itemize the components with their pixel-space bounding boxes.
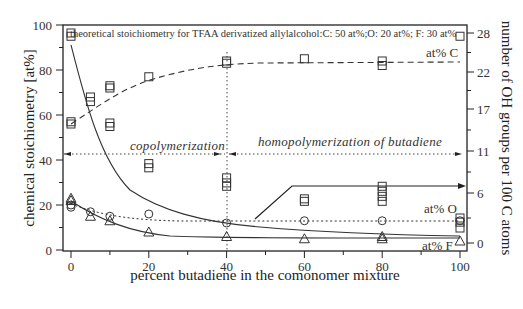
square-marker — [378, 187, 386, 195]
y-axis-label: chemical stoichiometry [at%] — [21, 49, 37, 226]
y2-tick-label: 11 — [477, 144, 490, 159]
left-y-axis: 020406080100 — [33, 18, 64, 258]
y2-axis-label: number of OH groups per 100 C atoms — [499, 21, 515, 256]
square-marker — [300, 55, 308, 63]
y2-tick-label: 22 — [477, 65, 490, 80]
y2-tick-label: 6 — [477, 186, 484, 201]
oh-axis-pointer-head — [458, 183, 466, 189]
x-axis-label: percent butadiene in the comonomer mixtu… — [130, 267, 400, 283]
y-tick-label: 80 — [39, 63, 52, 78]
at-o-fit-curve — [71, 204, 460, 221]
y2-tick-label: 0 — [477, 236, 484, 251]
square-marker — [86, 93, 94, 101]
y-tick-label: 60 — [39, 108, 52, 123]
series-label-c: at% C — [426, 45, 458, 60]
circle-marker — [145, 210, 153, 218]
square-marker — [106, 84, 114, 92]
arrowhead-mid-right — [229, 152, 236, 156]
series-label-f: at% F — [422, 238, 453, 253]
y-tick-label: 100 — [33, 18, 53, 33]
theoretical-stoichiometry-note: theoretical stoichiometry for TFAA deriv… — [70, 28, 457, 39]
arrowhead-left — [64, 152, 71, 156]
square-marker — [378, 192, 386, 200]
y-tick-label: 0 — [46, 243, 53, 258]
arrowhead-right — [455, 152, 462, 156]
triangle-marker — [144, 227, 154, 236]
x-tick-label: 100 — [450, 259, 470, 274]
at-f-fit-curve — [71, 201, 460, 238]
at-c-fit-curve — [71, 62, 460, 124]
square-marker — [378, 197, 386, 205]
square-marker — [106, 82, 114, 90]
copolymerization-label: copolymerization — [130, 138, 225, 153]
y-tick-label: 20 — [39, 198, 52, 213]
triangle-marker — [455, 236, 465, 245]
y2-tick-label: 28 — [477, 26, 490, 41]
x-tick-label: 0 — [68, 259, 75, 274]
y-tick-label: 40 — [39, 153, 52, 168]
right-y-axis: 0611172228 — [467, 26, 491, 251]
chart: 020406080100 0611172228 020406080100 per… — [0, 0, 523, 309]
homopolymerization-label: homopolymerization of butadiene — [258, 134, 442, 149]
square-marker — [300, 197, 308, 205]
square-marker — [300, 195, 308, 203]
square-marker — [456, 32, 464, 40]
y2-tick-label: 17 — [477, 102, 491, 117]
series-label-o: at% O — [424, 201, 457, 216]
